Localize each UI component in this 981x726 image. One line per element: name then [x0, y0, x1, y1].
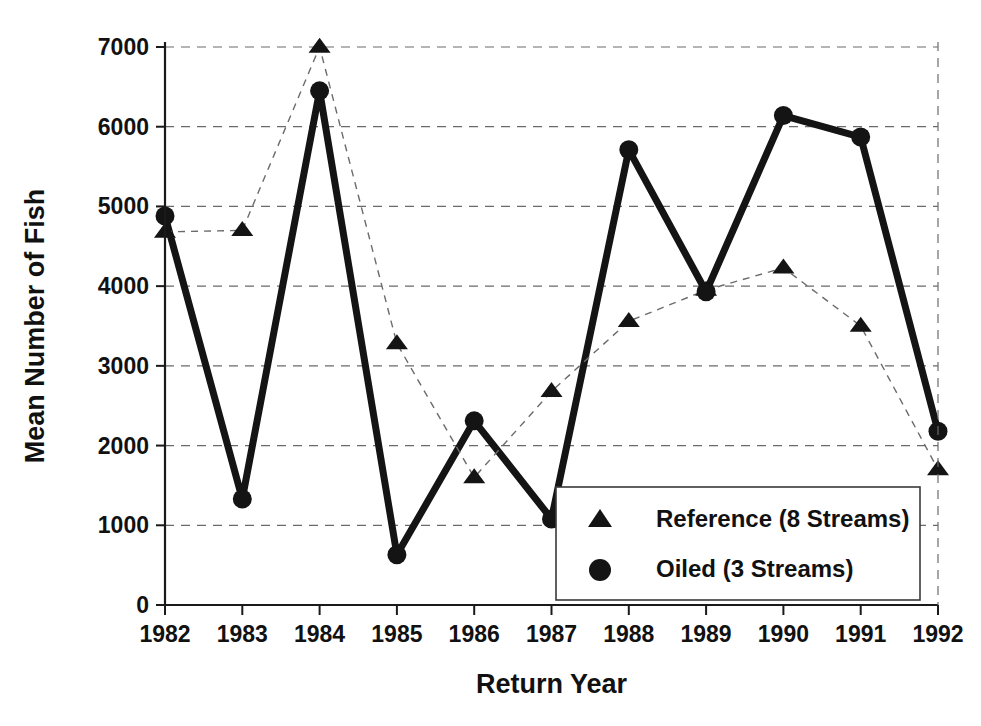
data-point-oiled [774, 106, 793, 125]
fish-abundance-line-chart: 0100020003000400050006000700019821983198… [0, 0, 981, 726]
data-point-reference [850, 317, 872, 332]
x-axis-ticks: 1982198319841985198619871988198919901991… [139, 605, 963, 647]
y-tick-label: 0 [136, 592, 149, 618]
data-point-oiled [310, 81, 329, 100]
legend-item-label: Oiled (3 Streams) [656, 555, 853, 582]
y-tick-label: 7000 [98, 34, 149, 60]
series-line-reference [165, 47, 938, 477]
y-tick-label: 2000 [98, 433, 149, 459]
data-point-oiled [619, 140, 638, 159]
data-point-oiled [851, 128, 870, 147]
x-axis-title: Return Year [476, 669, 628, 699]
x-tick-label: 1992 [912, 621, 963, 647]
x-tick-label: 1988 [603, 621, 654, 647]
x-tick-label: 1982 [139, 621, 190, 647]
y-tick-label: 3000 [98, 353, 149, 379]
y-axis-title: Mean Number of Fish [20, 189, 50, 464]
legend-item-label: Reference (8 Streams) [656, 505, 909, 532]
data-point-reference [309, 38, 331, 53]
x-tick-label: 1991 [835, 621, 886, 647]
y-tick-label: 6000 [98, 114, 149, 140]
x-tick-label: 1986 [449, 621, 500, 647]
x-tick-label: 1985 [371, 621, 422, 647]
x-tick-label: 1984 [294, 621, 345, 647]
x-tick-label: 1990 [758, 621, 809, 647]
series-line-oiled [165, 91, 938, 555]
x-tick-label: 1987 [526, 621, 577, 647]
y-axis-ticks: 01000200030004000500060007000 [98, 34, 165, 618]
x-tick-label: 1983 [217, 621, 268, 647]
data-point-oiled [233, 489, 252, 508]
data-point-reference [772, 259, 794, 274]
legend: Reference (8 Streams)Oiled (3 Streams) [556, 487, 920, 600]
data-point-reference [463, 468, 485, 483]
y-tick-label: 5000 [98, 193, 149, 219]
legend-box [556, 487, 920, 600]
data-point-reference [231, 221, 253, 236]
data-point-reference [386, 334, 408, 349]
data-point-reference [618, 312, 640, 327]
series-group [154, 38, 949, 565]
chart-canvas: 0100020003000400050006000700019821983198… [0, 0, 981, 726]
y-tick-label: 4000 [98, 273, 149, 299]
legend-marker-circle-icon [589, 559, 611, 581]
x-tick-label: 1989 [681, 621, 732, 647]
data-point-oiled [465, 411, 484, 430]
y-tick-label: 1000 [98, 512, 149, 538]
data-point-oiled [387, 545, 406, 564]
